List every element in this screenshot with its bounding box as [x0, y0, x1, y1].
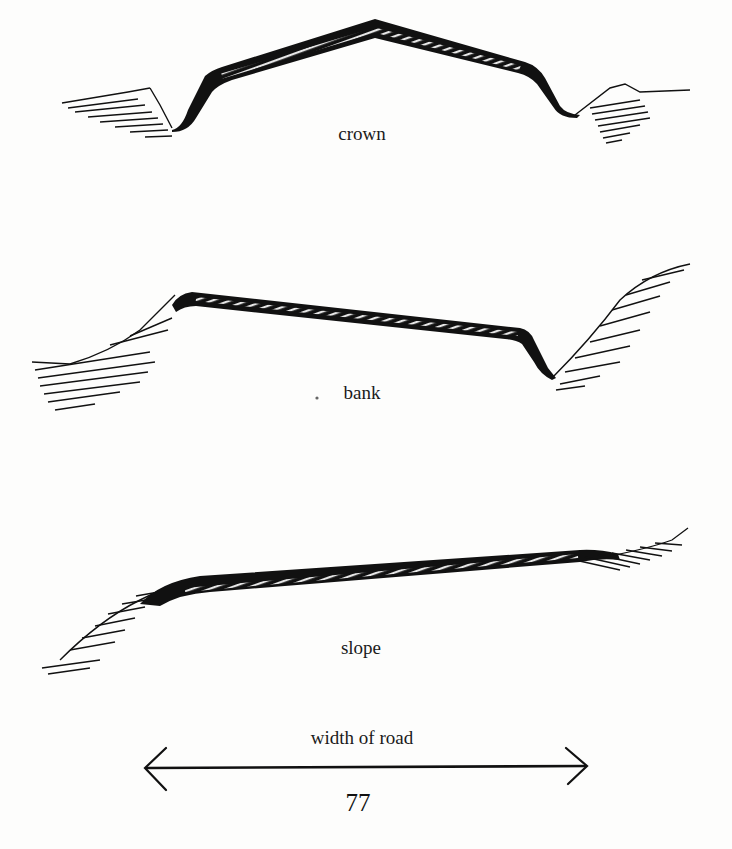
crown-left-ground-hatching — [62, 88, 172, 137]
crown-right-ground-hatching — [575, 84, 690, 143]
width-of-road-label: width of road — [311, 728, 413, 747]
bank-left-ground-hatching — [32, 295, 175, 410]
bank-right-ground-hatching — [552, 264, 690, 390]
crown-label: crown — [338, 124, 385, 143]
page-number: 77 — [346, 790, 371, 815]
slope-label: slope — [341, 638, 381, 657]
bank-road-surface — [172, 292, 556, 380]
crown-road-surface — [172, 19, 580, 132]
width-of-road-arrow — [145, 748, 587, 790]
book-page: crown bank slope width of road 77 — [0, 0, 732, 849]
slope-right-ground-hatching — [575, 528, 688, 570]
bank-label: bank — [344, 383, 381, 402]
